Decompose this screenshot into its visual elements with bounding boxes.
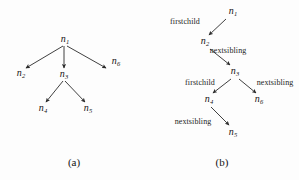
node-b-n5: n5	[229, 127, 238, 138]
edge-label-b-e1: firstchild	[170, 18, 200, 26]
edge-b-e5	[211, 107, 229, 125]
node-b-n1: n1	[229, 6, 238, 17]
node-label-subscript: 6	[260, 98, 263, 105]
node-a-n2: n2	[17, 68, 26, 79]
edge-label-b-e4: nextsibling	[257, 79, 294, 87]
node-label-subscript: 3	[236, 70, 239, 77]
node-label-subscript: 5	[234, 131, 237, 138]
node-a-n6: n6	[112, 56, 121, 67]
node-b-n6: n6	[255, 94, 264, 105]
edge-b-e3	[213, 79, 231, 93]
node-label-subscript: 4	[210, 98, 213, 105]
edge-a-e1	[26, 46, 63, 68]
edge-layer	[0, 0, 299, 180]
node-label-subscript: 5	[89, 107, 92, 114]
edge-b-e4	[239, 79, 256, 93]
panel-b-caption: (b)	[216, 157, 229, 168]
node-label-subscript: 6	[117, 60, 120, 67]
node-a-n1: n1	[61, 34, 70, 45]
node-label-subscript: 1	[234, 10, 237, 17]
node-a-n3: n3	[60, 69, 69, 80]
edge-a-e5	[65, 81, 85, 102]
node-label-subscript: 2	[22, 72, 25, 79]
node-b-n4: n4	[205, 94, 214, 105]
edge-a-e4	[46, 81, 63, 102]
edge-label-b-e5: nextsibling	[175, 118, 212, 126]
node-label-subscript: 1	[66, 38, 69, 45]
edge-label-b-e3: firstchild	[185, 79, 215, 87]
node-a-n4: n4	[39, 103, 48, 114]
node-b-n3: n3	[231, 66, 240, 77]
node-label-subscript: 4	[44, 107, 47, 114]
figure-container: n1n2n3n6n4n5 n1n2n3n4n6n5 firstchildnext…	[0, 0, 299, 180]
edge-a-e3	[67, 46, 106, 68]
node-a-n5: n5	[84, 103, 93, 114]
edge-b-e1	[209, 19, 226, 35]
node-b-n2: n2	[201, 36, 210, 47]
panel-a-caption: (a)	[68, 157, 80, 168]
edge-label-b-e2: nextsibling	[210, 47, 247, 55]
node-label-subscript: 3	[65, 73, 68, 80]
